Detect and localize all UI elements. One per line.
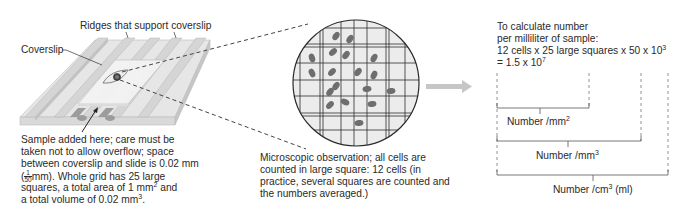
calc-line: = 1.5 x 107	[497, 57, 546, 69]
coverslip-label: Coverslip	[21, 44, 63, 56]
sample-note-text: and	[157, 182, 177, 193]
calc-line: To calculate number	[497, 21, 588, 33]
number-per-mm2-label: Number /mm2	[507, 116, 570, 128]
bracket-label-text: Number /mm	[536, 150, 595, 161]
calc-text: = 1.5 x 10	[497, 57, 542, 68]
sample-note-line: a total volume of 0.02 mm3.	[21, 194, 145, 206]
calc-line: per milliliter of sample:	[497, 33, 598, 45]
sample-note-text: a total volume of 0.02 mm	[21, 194, 138, 205]
sample-note-line: taken not to allow overflow; space	[21, 146, 174, 158]
sample-note-text: .	[142, 194, 145, 205]
microscope-note-line: the numbers averaged.)	[260, 188, 368, 200]
number-per-mm3-label: Number /mm3	[536, 150, 599, 162]
sample-note-line: squares, a total area of 1 mm2 and	[21, 182, 177, 194]
microscope-note-line: counted in large square: 12 cells (in	[260, 164, 421, 176]
ridges-label: Ridges that support coverslip	[80, 20, 211, 32]
microscope-note-line: Microscopic observation; all cells are	[260, 152, 426, 164]
superscript: 7	[542, 56, 546, 63]
bracket-label-text: Number /mm	[507, 116, 566, 127]
right-arrow-icon	[426, 80, 472, 93]
number-per-cm3-label: Number /cm3 (ml)	[553, 184, 633, 196]
superscript: 3	[595, 149, 599, 156]
calc-line: 12 cells x 25 large squares x 50 x 103	[497, 45, 666, 57]
sample-note-line: between coverslip and slide is 0.02 mm	[21, 158, 199, 170]
superscript: 3	[662, 44, 666, 51]
bracket-label-text: (ml)	[612, 184, 632, 195]
microscope-view	[280, 0, 430, 170]
sample-note-text: squares, a total area of 1 mm	[21, 182, 154, 193]
calc-text: 12 cells x 25 large squares x 50 x 10	[497, 45, 662, 56]
sample-note-text: mm). Whole grid has 25 large	[32, 171, 166, 182]
sample-note-line: Sample added here; care must be	[21, 134, 174, 146]
superscript: 2	[566, 115, 570, 122]
bracket-label-text: Number /cm	[553, 184, 608, 195]
microscope-note-line: practice, several squares are counted an…	[260, 176, 450, 188]
